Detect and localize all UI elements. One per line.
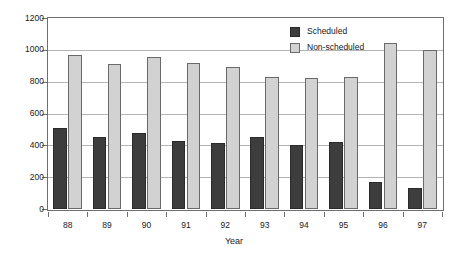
bar-92-scheduled <box>211 143 225 209</box>
y-axis-tick-label: 600 <box>30 109 44 118</box>
y-axis-tick-label: 200 <box>30 173 44 182</box>
x-axis-tick <box>166 212 167 217</box>
bar-88-scheduled <box>53 128 67 209</box>
bar-93-scheduled <box>250 137 264 209</box>
bar-chart: 020040060080010001200 888990919293949596… <box>0 0 468 262</box>
bar-93-non-scheduled <box>265 77 279 209</box>
y-axis-tick-label: 800 <box>30 77 44 86</box>
legend-item-label: Scheduled <box>307 27 347 36</box>
bar-89-scheduled <box>93 137 107 209</box>
legend-swatch-icon <box>290 27 300 37</box>
bar-94-scheduled <box>290 145 304 209</box>
bar-96-non-scheduled <box>384 43 398 209</box>
x-axis-tick <box>48 212 49 217</box>
legend-item-scheduled: Scheduled <box>290 26 364 37</box>
x-axis-tick-label: 96 <box>378 221 387 230</box>
y-axis-tick-label: 1200 <box>25 14 44 23</box>
x-axis-title: Year <box>0 236 468 246</box>
bar-95-non-scheduled <box>344 77 358 209</box>
bar-90-scheduled <box>132 133 146 209</box>
x-axis-tick <box>324 212 325 217</box>
bar-97-non-scheduled <box>423 50 437 209</box>
bar-97-scheduled <box>408 188 422 209</box>
x-axis-tick <box>363 212 364 217</box>
bar-90-non-scheduled <box>147 57 161 209</box>
x-axis-tick-label: 90 <box>142 221 151 230</box>
bars-layer <box>48 18 442 209</box>
x-axis-tick <box>87 212 88 217</box>
x-axis-tick-label: 95 <box>339 221 348 230</box>
x-axis-tick <box>403 212 404 217</box>
x-axis-tick-label: 93 <box>260 221 269 230</box>
y-axis-tick-label: 1000 <box>25 45 44 54</box>
bar-89-non-scheduled <box>108 64 122 209</box>
legend-item-label: Non-scheduled <box>307 43 364 52</box>
x-axis-tick-label: 88 <box>63 221 72 230</box>
x-axis-tick <box>206 212 207 217</box>
bar-94-non-scheduled <box>305 78 319 209</box>
bar-92-non-scheduled <box>226 67 240 209</box>
x-axis-tick-label: 89 <box>102 221 111 230</box>
bar-91-scheduled <box>172 141 186 209</box>
bar-96-scheduled <box>369 182 383 209</box>
x-axis-tick-label: 92 <box>221 221 230 230</box>
bar-88-non-scheduled <box>68 55 82 209</box>
legend-item-non-scheduled: Non-scheduled <box>290 42 364 53</box>
x-axis-tick-label: 97 <box>418 221 427 230</box>
y-axis-tick-label: 400 <box>30 141 44 150</box>
x-axis-tick-label: 94 <box>299 221 308 230</box>
y-axis-tick-label: 0 <box>39 205 44 214</box>
x-axis-tick <box>127 212 128 217</box>
bar-95-scheduled <box>329 142 343 209</box>
legend-swatch-icon <box>290 43 300 53</box>
x-axis-tick-label: 91 <box>181 221 190 230</box>
x-axis-tick <box>245 212 246 217</box>
x-axis-tick <box>284 212 285 217</box>
bar-91-non-scheduled <box>187 63 201 209</box>
x-axis-tick <box>442 212 443 217</box>
legend: Scheduled Non-scheduled <box>290 26 364 53</box>
